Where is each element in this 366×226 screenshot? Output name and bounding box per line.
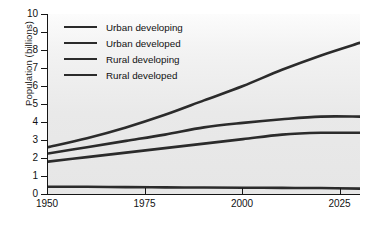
chart-figure: Population (billions) 109876543210 19501… (0, 0, 366, 226)
y-tick-label-9: 9 (0, 27, 38, 37)
legend-item-1: Urban developed (64, 35, 234, 51)
x-tick-label-1975: 1975 (115, 198, 175, 209)
legend-label: Rural developed (106, 70, 177, 81)
y-tick-label-7: 7 (0, 63, 38, 73)
x-tick-label-1950: 1950 (17, 198, 77, 209)
y-tick-label-10: 10 (0, 9, 38, 19)
x-tick-label-2025: 2025 (310, 198, 366, 209)
legend-swatch-icon (64, 42, 97, 44)
y-tick-label-6: 6 (0, 81, 38, 91)
x-tick-1975 (145, 188, 146, 195)
y-tick-label-1: 1 (0, 171, 38, 181)
legend-label: Urban developing (106, 22, 183, 33)
y-tick-label-2: 2 (0, 153, 38, 163)
y-tick-label-8: 8 (0, 45, 38, 55)
legend-item-3: Rural developed (64, 67, 234, 83)
x-tick-label-2000: 2000 (212, 198, 272, 209)
legend-item-0: Urban developing (64, 19, 234, 35)
legend-swatch-icon (64, 26, 97, 28)
chart-legend: Urban developingUrban developedRural dev… (64, 19, 234, 83)
legend-swatch-icon (64, 58, 97, 60)
y-tick-label-3: 3 (0, 135, 38, 145)
y-tick-label-4: 4 (0, 117, 38, 127)
legend-label: Urban developed (106, 38, 181, 49)
legend-item-2: Rural developing (64, 51, 234, 67)
x-tick-1950 (47, 188, 48, 195)
x-tick-2000 (242, 188, 243, 195)
legend-label: Rural developing (106, 54, 180, 65)
x-tick-2025 (340, 188, 341, 195)
series-line-3 (48, 187, 360, 189)
legend-swatch-icon (64, 74, 97, 76)
y-tick-label-5: 5 (0, 99, 38, 109)
